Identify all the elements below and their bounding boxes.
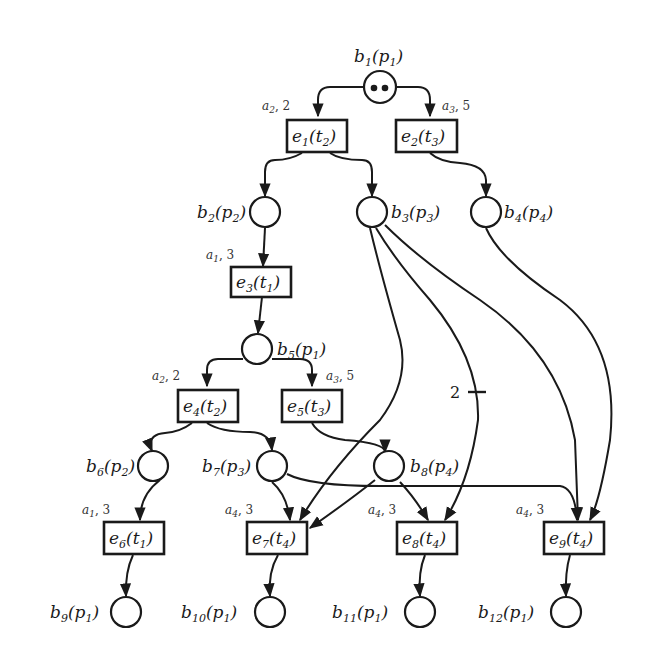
label-b1: b1(p1) (354, 46, 403, 69)
label-b5: b5(p1) (277, 339, 326, 362)
arc-e1-b2 (265, 153, 302, 196)
annotation-e4: a2, 2 (152, 369, 180, 385)
label-e3: e3(t1) (236, 272, 280, 295)
arc-e2-b4 (430, 153, 486, 196)
arc-b2-e3 (263, 228, 265, 266)
arc-b7-e7 (272, 482, 290, 520)
label-e6: e6(t1) (109, 528, 153, 551)
arc-b8-e7 (310, 480, 375, 528)
place-b6[interactable] (138, 451, 168, 481)
place-b7[interactable] (257, 451, 287, 481)
label-b10: b10(p1) (181, 602, 237, 625)
token-icon (371, 85, 378, 92)
label-e9: e9(t4) (549, 528, 593, 551)
annotation-e7: a4, 3 (225, 503, 253, 519)
label-b11: b11(p1) (332, 602, 388, 625)
arc-e7-b10 (270, 555, 278, 596)
annotation-e5: a3, 5 (326, 369, 354, 385)
arc-e1-b3 (330, 153, 372, 196)
arc-e4-b7 (207, 423, 272, 450)
label-e1: e1(t2) (292, 126, 336, 149)
label-b8: b8(p4) (410, 456, 459, 479)
place-b8[interactable] (374, 451, 404, 481)
label-e4: e4(t2) (183, 396, 227, 419)
annotation-e2: a3, 5 (442, 99, 470, 115)
arc-b5-e5 (272, 359, 312, 386)
place-b5[interactable] (242, 334, 272, 364)
arc-e6-b9 (126, 555, 133, 596)
place-b11[interactable] (405, 597, 435, 627)
annotation-e1: a2, 2 (262, 99, 290, 115)
place-b4[interactable] (471, 197, 501, 227)
token-icon (382, 85, 389, 92)
petri-net-diagram: b1(p1) b2(p2) b3(p3) b4(p4) b5(p1) b6(p2… (0, 0, 647, 669)
label-e2: e2(t3) (401, 126, 445, 149)
event-labels: e1(t2) e2(t3) e3(t1) e4(t2) e5(t3) e6(t1… (109, 126, 593, 551)
places (111, 71, 581, 627)
arc-b4-e9 (486, 228, 611, 520)
annotation-e8: a4, 3 (368, 503, 396, 519)
label-b3: b3(p3) (391, 202, 440, 225)
label-e5: e5(t3) (287, 396, 331, 419)
annotation-e6: a1, 3 (82, 503, 110, 519)
arcs (126, 87, 612, 596)
place-b9[interactable] (111, 597, 141, 627)
label-b7: b7(p3) (202, 456, 251, 479)
arc-b5-e4 (207, 359, 243, 386)
arc-e9-b12 (566, 555, 570, 596)
label-b4: b4(p4) (504, 202, 553, 225)
arc-e3-b5 (258, 297, 262, 333)
arc-weight-label: 2 (450, 383, 460, 402)
label-e8: e8(t4) (402, 528, 446, 551)
label-b9: b9(p1) (50, 602, 99, 625)
label-b12: b12(p1) (478, 602, 534, 625)
arc-e8-b11 (420, 555, 425, 596)
annotation-e3: a1, 3 (206, 248, 234, 264)
place-b1[interactable] (364, 71, 396, 103)
arc-b8-e8 (400, 482, 428, 520)
arc-e4-b6 (150, 423, 192, 451)
label-e7: e7(t4) (252, 528, 296, 551)
arc-b1-e2 (397, 87, 430, 116)
events (104, 120, 604, 554)
place-b10[interactable] (255, 597, 285, 627)
place-b3[interactable] (357, 197, 387, 227)
arc-b1-e1 (318, 87, 363, 116)
annotation-e9: a4, 3 (516, 503, 544, 519)
label-b2: b2(p2) (197, 202, 246, 225)
place-b2[interactable] (250, 197, 280, 227)
label-b6: b6(p2) (86, 456, 135, 479)
arc-b6-e6 (140, 480, 160, 520)
place-b12[interactable] (551, 597, 581, 627)
